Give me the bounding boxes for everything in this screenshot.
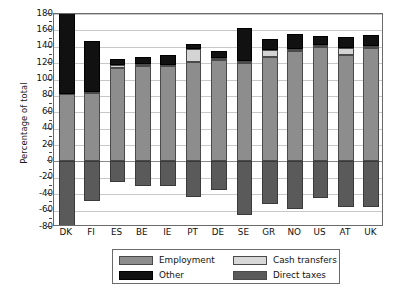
- legend-swatch-employment: [119, 256, 153, 265]
- bar-segment-direct-taxes[interactable]: [287, 161, 303, 209]
- y-tick-mark: [47, 95, 52, 96]
- bar-segment-employment[interactable]: [59, 94, 75, 161]
- bar-segment-employment[interactable]: [186, 62, 202, 162]
- bar-segment-cash-transfers[interactable]: [186, 49, 202, 61]
- bar-segment-other[interactable]: [237, 28, 253, 61]
- bar-segment-direct-taxes[interactable]: [313, 161, 329, 198]
- bar-segment-cash-transfers[interactable]: [262, 50, 278, 57]
- bar-segment-employment[interactable]: [135, 66, 151, 161]
- y-tick-mark: [47, 210, 52, 211]
- y-tick-mark: [47, 160, 52, 161]
- legend-item-cash[interactable]: Cash transfers: [233, 254, 337, 267]
- x-tick-label-de: DE: [205, 228, 230, 237]
- bar-segment-direct-taxes[interactable]: [59, 161, 75, 226]
- y-tick-mark-minor: [49, 185, 52, 186]
- x-tick-label-ie: IE: [155, 228, 180, 237]
- y-tick-mark: [47, 13, 52, 14]
- y-tick-mark-minor: [49, 54, 52, 55]
- bar-segment-direct-taxes[interactable]: [160, 161, 176, 186]
- y-tick-mark-minor: [49, 21, 52, 22]
- bar-group[interactable]: [135, 14, 151, 225]
- bar-segment-direct-taxes[interactable]: [237, 161, 253, 214]
- y-tick-mark: [47, 46, 52, 47]
- bar-segment-other[interactable]: [211, 51, 227, 58]
- bar-segment-employment[interactable]: [262, 57, 278, 162]
- bar-group[interactable]: [160, 14, 176, 225]
- legend-label: Direct taxes: [273, 271, 326, 280]
- y-tick-mark: [47, 144, 52, 145]
- y-tick-mark-minor: [49, 136, 52, 137]
- bar-group[interactable]: [237, 14, 253, 225]
- bar-segment-direct-taxes[interactable]: [110, 161, 126, 181]
- bar-group[interactable]: [59, 14, 75, 225]
- bar-segment-employment[interactable]: [110, 68, 126, 161]
- legend-item-employment[interactable]: Employment: [119, 254, 215, 267]
- y-tick-mark: [47, 62, 52, 63]
- bar-segment-direct-taxes[interactable]: [84, 161, 100, 200]
- bar-segment-direct-taxes[interactable]: [135, 161, 151, 186]
- bar-segment-other[interactable]: [59, 13, 75, 94]
- bar-segment-employment[interactable]: [160, 66, 176, 161]
- bar-segment-cash-transfers[interactable]: [313, 45, 329, 47]
- legend-label: Employment: [159, 256, 215, 265]
- bar-segment-cash-transfers[interactable]: [160, 65, 176, 67]
- y-tick-mark-minor: [49, 201, 52, 202]
- bar-segment-cash-transfers[interactable]: [110, 65, 126, 68]
- bar-segment-employment[interactable]: [338, 55, 354, 162]
- x-tick-label-pt: PT: [180, 228, 205, 237]
- bar-segment-other[interactable]: [135, 57, 151, 64]
- bar-segment-other[interactable]: [338, 37, 354, 48]
- bar-segment-cash-transfers[interactable]: [135, 64, 151, 66]
- bar-segment-other[interactable]: [110, 59, 126, 65]
- x-tick-label-gr: GR: [256, 228, 281, 237]
- y-tick-mark: [47, 111, 52, 112]
- bar-segment-cash-transfers[interactable]: [338, 48, 354, 55]
- x-tick-label-no: NO: [281, 228, 306, 237]
- y-tick-mark: [47, 226, 52, 227]
- bar-segment-direct-taxes[interactable]: [211, 161, 227, 190]
- legend-swatch-other: [119, 271, 153, 280]
- y-tick-mark: [47, 29, 52, 30]
- legend-label: Other: [159, 271, 184, 280]
- bar-segment-employment[interactable]: [211, 60, 227, 162]
- bar-group[interactable]: [287, 14, 303, 225]
- bar-group[interactable]: [84, 14, 100, 225]
- bar-segment-direct-taxes[interactable]: [186, 161, 202, 197]
- bar-segment-other[interactable]: [363, 35, 379, 46]
- bar-segment-cash-transfers[interactable]: [363, 46, 379, 48]
- bar-segment-cash-transfers[interactable]: [287, 49, 303, 51]
- bar-group[interactable]: [186, 14, 202, 225]
- bar-segment-employment[interactable]: [313, 47, 329, 162]
- legend-item-taxes[interactable]: Direct taxes: [233, 269, 326, 282]
- bar-segment-cash-transfers[interactable]: [84, 92, 100, 94]
- bar-group[interactable]: [211, 14, 227, 225]
- x-tick-label-at: AT: [332, 228, 357, 237]
- bar-group[interactable]: [110, 14, 126, 225]
- bar-segment-other[interactable]: [84, 41, 100, 92]
- bar-group[interactable]: [363, 14, 379, 225]
- bar-segment-other[interactable]: [160, 55, 176, 65]
- y-tick-mark-minor: [49, 38, 52, 39]
- bar-segment-employment[interactable]: [287, 51, 303, 162]
- bar-group[interactable]: [338, 14, 354, 225]
- legend-label: Cash transfers: [273, 256, 337, 265]
- bar-segment-employment[interactable]: [237, 63, 253, 161]
- x-tick-label-uk: UK: [358, 228, 383, 237]
- bar-group[interactable]: [262, 14, 278, 225]
- bar-segment-cash-transfers[interactable]: [237, 61, 253, 63]
- bar-segment-other[interactable]: [287, 34, 303, 50]
- legend-item-other[interactable]: Other: [119, 269, 184, 282]
- bar-segment-employment[interactable]: [84, 93, 100, 161]
- bar-segment-other[interactable]: [186, 44, 202, 49]
- bar-group[interactable]: [313, 14, 329, 225]
- plot-area: [53, 13, 383, 226]
- bar-segment-other[interactable]: [313, 36, 329, 45]
- bar-segment-direct-taxes[interactable]: [262, 161, 278, 204]
- y-tick-mark-minor: [49, 87, 52, 88]
- bar-segment-direct-taxes[interactable]: [363, 161, 379, 206]
- bar-segment-employment[interactable]: [363, 48, 379, 162]
- bar-segment-cash-transfers[interactable]: [211, 58, 227, 60]
- bar-segment-direct-taxes[interactable]: [338, 161, 354, 207]
- y-axis: 180160140120100806040200-20-40-60-80: [0, 13, 53, 226]
- bar-segment-other[interactable]: [262, 39, 278, 50]
